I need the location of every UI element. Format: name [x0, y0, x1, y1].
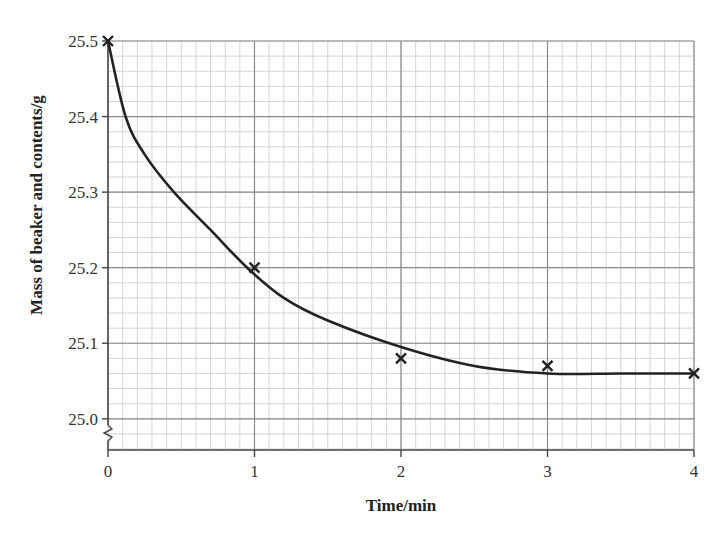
chart: 25.025.125.225.325.425.5 01234 Time/min …	[0, 0, 720, 535]
y-tick-label: 25.0	[68, 410, 98, 429]
y-axis-ticks: 25.025.125.225.325.425.5	[68, 32, 108, 429]
x-tick-label: 3	[543, 462, 552, 481]
x-tick-label: 0	[104, 462, 113, 481]
y-tick-label: 25.2	[68, 259, 98, 278]
x-axis-ticks: 01234	[104, 450, 699, 481]
y-tick-label: 25.5	[68, 32, 98, 51]
y-tick-label: 25.1	[68, 334, 98, 353]
x-tick-label: 1	[250, 462, 259, 481]
x-tick-label: 4	[690, 462, 699, 481]
y-tick-label: 25.3	[68, 183, 98, 202]
y-axis-title: Mass of beaker and contents/g	[27, 95, 46, 315]
y-tick-label: 25.4	[68, 108, 98, 127]
x-tick-label: 2	[397, 462, 406, 481]
x-axis-title: Time/min	[366, 496, 437, 515]
